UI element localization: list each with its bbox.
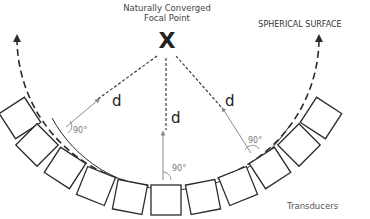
transducer xyxy=(151,185,181,215)
transducer xyxy=(185,179,220,214)
spherical-surface-label: SPHERICAL SURFACE xyxy=(258,20,341,29)
focal-point-marker: X xyxy=(159,28,176,53)
beam-left-dashed xyxy=(98,56,157,99)
distance-label-right: d xyxy=(225,92,235,110)
angle-label-left: 90° xyxy=(73,126,87,135)
transducer xyxy=(218,166,257,205)
transducer xyxy=(249,147,290,188)
distance-label-left: d xyxy=(112,92,122,110)
transducer xyxy=(112,179,147,214)
angle-arc-center xyxy=(163,172,171,180)
focal-point-label-line2: Focal Point xyxy=(144,13,191,23)
normal-arrow-right xyxy=(223,109,251,153)
angle-label-right: 90° xyxy=(248,136,262,145)
focal-point-label-line1: Naturally Converged xyxy=(123,3,211,13)
transducers-label: Transducers xyxy=(286,201,339,211)
transducer xyxy=(76,166,115,205)
beam-right-dashed xyxy=(176,56,222,108)
angle-arc-left xyxy=(68,121,72,133)
distance-label-center: d xyxy=(171,109,181,127)
focused-transducer-array-diagram: Naturally Converged Focal Point X SPHERI… xyxy=(0,0,370,219)
angle-label-center: 90° xyxy=(172,164,186,173)
